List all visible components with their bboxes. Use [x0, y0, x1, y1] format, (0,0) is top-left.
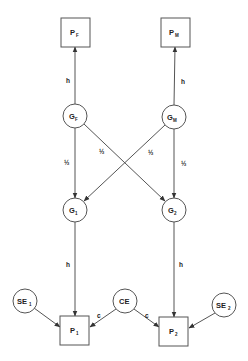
- edges: [34, 47, 215, 328]
- node-ce: CE: [113, 289, 137, 313]
- edge-ce-p1: [90, 309, 116, 327]
- label-c-ce-p2: c: [145, 312, 149, 319]
- node-se1: SE 1: [13, 289, 37, 313]
- svg-text:F: F: [75, 117, 78, 122]
- node-gf: G F: [63, 104, 87, 128]
- label-half-gm-g2: ½: [181, 160, 187, 167]
- edge-se1-p1: [34, 308, 60, 327]
- svg-text:P: P: [169, 327, 174, 336]
- label-h-g1-p1: h: [66, 261, 70, 268]
- edge-gm-pm: [174, 47, 175, 105]
- svg-text:F: F: [76, 33, 79, 38]
- label-half-gm-g1: ½: [148, 149, 154, 156]
- svg-text:P: P: [70, 28, 75, 37]
- label-half-gf-g2: ½: [99, 148, 105, 155]
- label-h-gf-pf: h: [66, 77, 70, 84]
- svg-text:P: P: [70, 326, 75, 335]
- node-se2: SE 2: [212, 293, 236, 317]
- svg-text:M: M: [175, 33, 179, 38]
- svg-text:SE: SE: [216, 301, 226, 310]
- label-c-ce-p1: c: [97, 312, 101, 319]
- node-p1: P 1: [60, 316, 89, 345]
- svg-text:SE: SE: [17, 297, 27, 306]
- edge-se2-p2: [189, 313, 215, 328]
- node-g2: G 2: [162, 198, 186, 222]
- svg-text:M: M: [173, 118, 177, 123]
- node-pm: P M: [161, 18, 190, 47]
- label-h-g2-p2: h: [179, 261, 183, 268]
- node-g1: G 1: [63, 198, 87, 222]
- node-gm: G M: [162, 105, 186, 129]
- svg-text:P: P: [169, 28, 174, 37]
- path-diagram: h h ½ ½ ½ ½ h h c c P F P M G F G M G 1 …: [0, 0, 248, 361]
- svg-text:CE: CE: [119, 297, 129, 306]
- label-half-gf-g1: ½: [64, 159, 70, 166]
- node-pf: P F: [61, 18, 90, 47]
- label-h-gm-pm: h: [181, 78, 185, 85]
- node-p2: P 2: [159, 317, 188, 346]
